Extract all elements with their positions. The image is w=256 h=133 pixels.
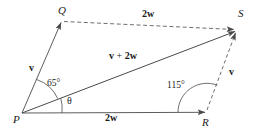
angle-arc-theta <box>61 98 62 113</box>
edge-QS-vector-2w-dashed <box>64 22 234 30</box>
resultant-plus-sign: + <box>114 50 125 61</box>
edge-label-2w-bottom: 2w <box>105 113 117 123</box>
edge-PS-resultant <box>22 32 235 114</box>
vertex-label-P: P <box>13 114 20 125</box>
edge-PQ-vector-v <box>22 23 61 114</box>
vertex-label-S: S <box>238 8 244 19</box>
vertex-label-R: R <box>202 117 209 128</box>
edge-label-v-left: v <box>29 63 34 73</box>
edge-label-2w-top: 2w <box>142 9 154 19</box>
angle-label-115: 115° <box>167 81 185 91</box>
vertex-label-Q: Q <box>58 5 66 16</box>
resultant-2w-term: 2w <box>125 50 137 61</box>
angle-label-theta: θ <box>67 96 72 106</box>
edge-label-v-right: v <box>229 67 234 77</box>
vector-diagram-figure: Q S P R v v 2w 2w v + 2w 65° θ 115° <box>0 0 256 133</box>
angle-label-65: 65° <box>47 79 60 89</box>
edge-label-resultant: v + 2w <box>109 51 137 61</box>
vector-diagram-canvas <box>0 0 256 133</box>
